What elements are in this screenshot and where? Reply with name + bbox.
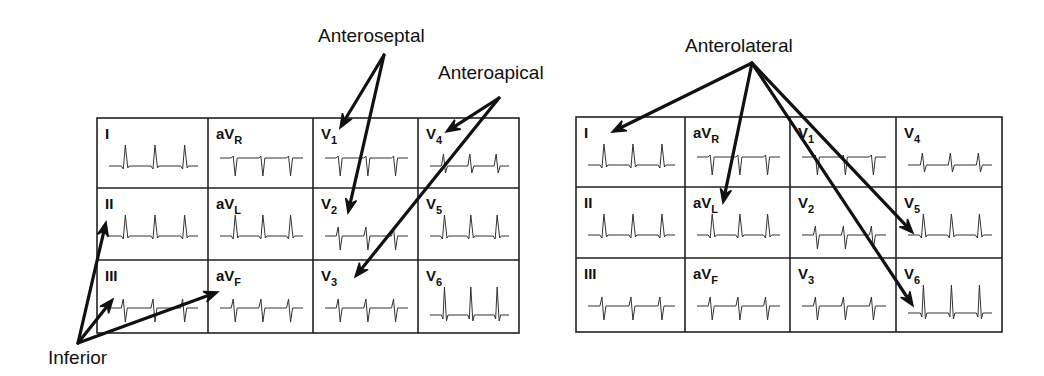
lead-label-v2: V2 <box>321 196 337 216</box>
lead-subscript: 1 <box>808 133 814 145</box>
lead-label-v6: V6 <box>904 266 920 286</box>
lead-name: V <box>904 124 914 141</box>
lead-label-v3: V3 <box>798 266 814 286</box>
lead-name: V <box>904 194 914 211</box>
lead-name: V <box>904 265 914 282</box>
lead-name: aV <box>693 194 711 211</box>
lead-subscript: 5 <box>436 204 442 216</box>
lead-name: III <box>584 265 597 282</box>
lead-label-avr: aVR <box>693 125 719 145</box>
ecg-trace-v2 <box>325 227 408 250</box>
lead-name: V <box>426 267 436 284</box>
lead-subscript: F <box>711 274 718 286</box>
lead-subscript: 6 <box>436 276 442 288</box>
lead-name: II <box>584 194 592 211</box>
lead-label-v5: V5 <box>426 196 442 216</box>
lead-label-avf: aVF <box>693 266 718 286</box>
lead-label-v6: V6 <box>426 268 442 288</box>
lead-label-ii: II <box>584 195 592 210</box>
ecg-trace-avr <box>220 156 303 176</box>
lead-label-v1: V1 <box>798 125 814 145</box>
anterolateral-to-i-arrow <box>612 63 752 132</box>
lead-subscript: 4 <box>914 133 920 145</box>
lead-subscript: 3 <box>808 274 814 286</box>
ecg-trace-ii <box>109 215 198 239</box>
lead-subscript: 4 <box>436 134 442 146</box>
region-label-anterolateral: Anterolateral <box>685 36 793 55</box>
lead-label-v3: V3 <box>321 268 337 288</box>
ecg-trace-v3 <box>802 297 886 320</box>
lead-subscript: 3 <box>331 276 337 288</box>
anteroseptal-to-v1-arrow <box>340 55 384 128</box>
ecg-trace-v5 <box>908 214 992 238</box>
ecg-infarct-localization-figure: IaVRV1V4IIaVLV2V5IIIaVFV3V6AnteroseptalA… <box>0 0 1044 376</box>
lead-name: aV <box>693 265 711 282</box>
right-ecg-grid <box>576 117 1002 332</box>
lead-name: III <box>105 267 118 284</box>
lead-label-ii: II <box>105 196 113 211</box>
lead-label-avl: aVL <box>216 196 241 216</box>
region-label-inferior: Inferior <box>48 348 107 367</box>
lead-subscript: L <box>711 203 718 215</box>
lead-name: aV <box>216 267 234 284</box>
lead-name: I <box>584 124 588 141</box>
lead-label-v2: V2 <box>798 195 814 215</box>
lead-name: V <box>426 125 436 142</box>
lead-subscript: L <box>234 204 241 216</box>
ecg-trace-v3 <box>325 299 408 322</box>
lead-label-v5: V5 <box>904 195 920 215</box>
region-label-anteroapical: Anteroapical <box>438 63 544 82</box>
ecg-trace-i <box>109 145 198 169</box>
lead-label-iii: III <box>105 268 118 283</box>
lead-subscript: 2 <box>808 203 814 215</box>
lead-name: aV <box>693 124 711 141</box>
ecg-trace-avf <box>697 297 780 320</box>
lead-name: V <box>798 124 808 141</box>
anterolateral-to-v6-arrow <box>752 63 913 306</box>
lead-subscript: 1 <box>331 134 337 146</box>
ecg-diagram-canvas <box>0 0 1044 376</box>
lead-label-i: I <box>584 125 588 140</box>
lead-name: V <box>426 195 436 212</box>
ecg-trace-avf <box>220 299 303 322</box>
ecg-trace-v6 <box>908 285 992 319</box>
lead-label-avf: aVF <box>216 268 241 288</box>
lead-label-i: I <box>105 126 109 141</box>
ecg-trace-v4 <box>908 153 992 172</box>
lead-label-avr: aVR <box>216 126 242 146</box>
lead-subscript: R <box>234 134 242 146</box>
ecg-trace-v5 <box>430 215 509 239</box>
lead-subscript: 5 <box>914 203 920 215</box>
lead-label-iii: III <box>584 266 597 281</box>
anterolateral-to-avl-arrow <box>720 63 752 203</box>
lead-name: aV <box>216 195 234 212</box>
ecg-trace-avl <box>220 215 303 239</box>
ecg-trace-avl <box>697 214 780 238</box>
ecg-trace-iii <box>588 297 675 320</box>
lead-name: V <box>321 195 331 212</box>
lead-label-avl: aVL <box>693 195 718 215</box>
ecg-trace-ii <box>588 214 675 238</box>
lead-subscript: 6 <box>914 274 920 286</box>
anterolateral-to-v5-arrow <box>752 63 913 233</box>
lead-name: V <box>798 194 808 211</box>
ecg-trace-i <box>588 144 675 168</box>
lead-subscript: R <box>711 133 719 145</box>
lead-subscript: F <box>234 276 241 288</box>
lead-name: II <box>105 195 113 212</box>
ecg-trace-v6 <box>430 287 509 321</box>
lead-subscript: 2 <box>331 204 337 216</box>
ecg-trace-avr <box>697 155 780 175</box>
lead-name: aV <box>216 125 234 142</box>
lead-label-v1: V1 <box>321 126 337 146</box>
lead-name: V <box>321 267 331 284</box>
lead-name: I <box>105 125 109 142</box>
anteroapical-to-v4-arrow <box>446 98 499 132</box>
lead-name: V <box>321 125 331 142</box>
anteroseptal-to-v2-arrow <box>346 55 384 213</box>
lead-label-v4: V4 <box>904 125 920 145</box>
lead-name: V <box>798 265 808 282</box>
lead-label-v4: V4 <box>426 126 442 146</box>
region-label-anteroseptal: Anteroseptal <box>318 26 425 45</box>
ecg-trace-v1 <box>325 156 408 176</box>
